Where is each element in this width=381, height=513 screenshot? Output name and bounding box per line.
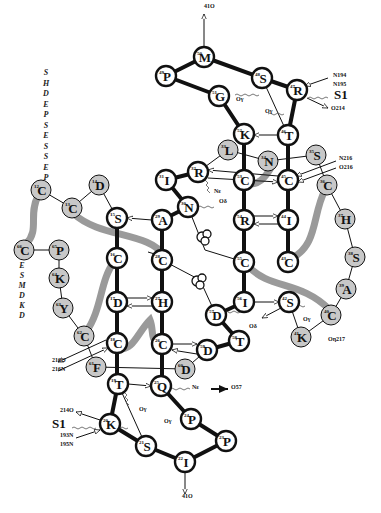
residue-node-y63: 63Y xyxy=(53,298,73,318)
residue-node-t46: 46T xyxy=(278,125,298,145)
residue-node-s48: 48S xyxy=(252,68,272,88)
residue-letter: D xyxy=(203,343,212,358)
residue-node-i56: 56I xyxy=(234,292,254,312)
backbone-bonds xyxy=(110,57,297,462)
sequence-letter: P xyxy=(44,173,49,182)
residue-letter: C xyxy=(68,201,77,216)
residue-node-a39: 39A xyxy=(336,279,356,299)
residue-node-c40: 40C xyxy=(321,305,341,325)
residue-node-l33: 33L xyxy=(218,140,238,160)
residue-letter: C xyxy=(158,253,167,268)
sequence-letter: E xyxy=(42,100,48,109)
residue-node-s42: 42S xyxy=(279,292,299,312)
residue-letter: C xyxy=(37,183,46,198)
residue-node-s15: 15S xyxy=(107,208,127,228)
residue-letter: D xyxy=(212,308,221,323)
residue-letter: C xyxy=(323,178,332,193)
residue-node-f61: 61F xyxy=(86,357,106,377)
residue-node-m50: 50M xyxy=(194,47,214,67)
residue-letter: M xyxy=(199,50,211,65)
sequence-letter: S xyxy=(44,142,49,151)
sequence-letter: E xyxy=(42,131,48,140)
residue-node-c43: 43C xyxy=(278,252,298,272)
atom-label: 193N xyxy=(60,432,74,438)
atom-label: Oγ xyxy=(164,418,172,424)
residue-letter: C xyxy=(240,173,249,188)
residue-node-c13: 13C xyxy=(62,198,82,218)
atom-label: O216 xyxy=(339,164,353,170)
residue-letter: A xyxy=(158,213,168,228)
residue-node-d14: 14D xyxy=(89,175,109,195)
residue-letter: P xyxy=(223,434,231,449)
atom-label: 216O xyxy=(52,357,66,363)
atom-label: 41O xyxy=(204,3,215,9)
sequence-letter: K xyxy=(18,301,25,310)
s1-label: S1 xyxy=(52,416,66,431)
atom-label: O57 xyxy=(231,384,242,390)
residue-letter: T xyxy=(285,128,294,143)
residue-node-c45: 45C xyxy=(278,170,298,190)
residue-letter: C xyxy=(158,337,167,352)
sequence-letter: D xyxy=(42,89,49,98)
residue-letter: I xyxy=(286,213,291,228)
residue-node-c12: 12C xyxy=(31,180,51,200)
atom-label: Oγ xyxy=(139,406,147,412)
residue-node-p23: 23P xyxy=(216,431,236,451)
residue-node-k20: 20K xyxy=(100,414,120,434)
residue-node-c66: 66C xyxy=(14,240,34,260)
residue-interaction-diagram: 50M49P48S51G47R52K46T33L34N35S31I32R53C4… xyxy=(0,0,381,513)
residue-node-c16: 16C xyxy=(107,248,127,268)
sequence-letter: D xyxy=(18,291,25,300)
residue-letter: H xyxy=(341,212,351,227)
residue-node-q25: 25Q xyxy=(151,376,171,396)
residue-node-p24: 24P xyxy=(181,409,201,429)
residue-node-c55: 55C xyxy=(234,252,254,272)
residue-letter: C xyxy=(80,329,89,344)
residue-letter: R xyxy=(293,83,303,98)
residue-node-p65: 65P xyxy=(49,240,69,260)
sequence-letter: D xyxy=(18,311,25,320)
atom-label: Oγ xyxy=(265,108,273,114)
residue-node-p49: 49P xyxy=(156,66,176,86)
residue-letter: N xyxy=(264,154,274,169)
residue-node-i44: 44I xyxy=(278,210,298,230)
residue-node-t58: 58T xyxy=(229,331,249,351)
residue-letter: Q xyxy=(157,379,167,394)
residue-node-r47: 47R xyxy=(287,80,307,100)
residue-letter: C xyxy=(240,255,249,270)
atom-label: O214 xyxy=(331,105,345,111)
residue-letter: D xyxy=(181,362,190,377)
residue-letter: S xyxy=(143,439,150,454)
sequence-letter: M xyxy=(17,281,26,290)
residue-node-g51: 51G xyxy=(209,86,229,106)
residue-letter: K xyxy=(297,330,308,345)
residue-node-s38: 38S xyxy=(345,247,365,267)
atom-label: Oδ xyxy=(249,323,257,329)
residue-node-i22: 22I xyxy=(175,452,195,472)
atom-label: Oγ xyxy=(303,316,311,322)
residue-letter: S xyxy=(114,211,121,226)
residue-node-s21: 21S xyxy=(136,436,156,456)
residue-letter: P xyxy=(56,243,64,258)
residue-letter: T xyxy=(115,377,124,392)
residue-node-r54: 54R xyxy=(234,210,254,230)
residue-node-h27: 27H xyxy=(152,292,172,312)
residue-letter: K xyxy=(106,417,117,432)
residue-node-n30: 30N xyxy=(178,197,198,217)
residue-node-c26: 26C xyxy=(152,334,172,354)
residue-letter: K xyxy=(240,127,251,142)
residue-letter: D xyxy=(95,178,104,193)
atom-label: Oδ xyxy=(219,198,227,204)
sequence-letter: E xyxy=(42,163,48,172)
residue-letter: S xyxy=(313,148,320,163)
atom-label: 41O xyxy=(182,493,193,499)
residue-letter: S xyxy=(286,295,293,310)
residue-node-c18: 18C xyxy=(107,333,127,353)
residue-letter: N xyxy=(184,200,194,215)
residue-node-c28: 28C xyxy=(152,250,172,270)
residue-letter: P xyxy=(188,412,196,427)
residue-letter: C xyxy=(113,336,122,351)
atom-label: Nε xyxy=(214,188,221,194)
residue-letter: D xyxy=(113,295,122,310)
residue-node-k52: 52K xyxy=(234,124,254,144)
